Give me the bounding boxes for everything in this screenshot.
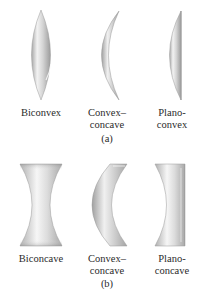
label-plano-convex: Plano- convex	[142, 107, 202, 131]
label-convex-concave-b: Convex– concave	[72, 253, 142, 277]
lens-diagram	[0, 0, 202, 293]
lens-biconcave	[20, 164, 62, 246]
label-biconvex: Biconvex	[6, 107, 76, 119]
caption-a: (a)	[72, 133, 142, 145]
lens-convex-concave-a	[97, 11, 119, 100]
lens-plano-convex	[170, 11, 182, 100]
lens-plano-concave	[155, 164, 185, 246]
caption-b: (b)	[72, 278, 142, 290]
label-plano-concave: Plano- concave	[142, 253, 202, 277]
label-convex-concave-a: Convex– concave	[72, 107, 142, 131]
label-biconcave: Biconcave	[6, 253, 76, 265]
lens-biconvex	[32, 10, 52, 100]
lens-convex-concave-b	[92, 164, 127, 246]
